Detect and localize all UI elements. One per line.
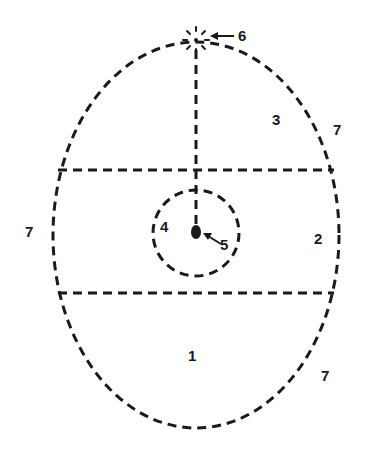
center-dot bbox=[191, 225, 201, 239]
label-2: 2 bbox=[314, 231, 322, 246]
diagram-canvas bbox=[0, 0, 366, 465]
label-7-left: 7 bbox=[25, 224, 33, 239]
label-4: 4 bbox=[160, 219, 168, 234]
arrow-icon-6 bbox=[210, 32, 234, 40]
starburst-icon bbox=[183, 27, 209, 53]
label-1: 1 bbox=[188, 348, 196, 363]
arrow-icon-5 bbox=[203, 233, 221, 244]
label-7-bottom-right: 7 bbox=[321, 368, 329, 383]
label-3: 3 bbox=[272, 112, 280, 127]
label-6: 6 bbox=[238, 28, 246, 43]
label-7-top-right: 7 bbox=[333, 122, 341, 137]
label-5: 5 bbox=[220, 237, 228, 252]
